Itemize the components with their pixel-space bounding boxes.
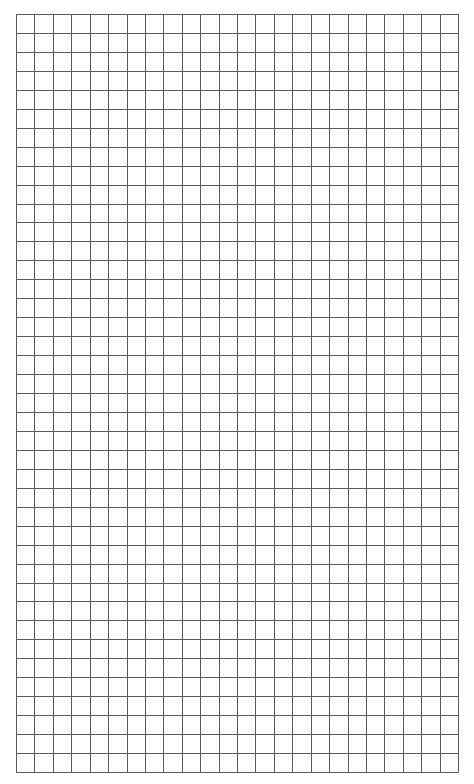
grid-lines — [16, 14, 459, 773]
graph-paper-grid — [16, 14, 458, 772]
